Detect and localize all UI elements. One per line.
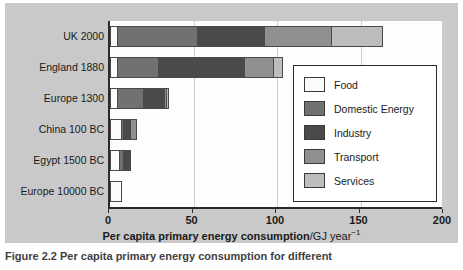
gridline <box>444 21 445 207</box>
legend-item[interactable]: Transport <box>304 148 379 165</box>
bar-segment <box>264 26 332 47</box>
x-axis-title: Per capita primary energy consumption/GJ… <box>0 228 463 242</box>
legend-label: Transport <box>334 151 379 163</box>
bar-row <box>110 26 382 47</box>
legend-item[interactable]: Food <box>304 76 358 93</box>
x-axis-tick-label: 150 <box>349 214 367 226</box>
x-axis-tick <box>275 209 276 213</box>
bar-segment <box>117 26 197 47</box>
legend-swatch <box>304 149 325 164</box>
figure-container: UK 2000England 1880Europe 1300China 100 … <box>0 0 463 270</box>
bar-row <box>110 119 136 140</box>
legend-label: Domestic Energy <box>334 103 414 115</box>
bar-segment <box>273 57 283 78</box>
bar-segment <box>117 57 159 78</box>
y-axis-tick-label: China 100 BC <box>2 123 104 135</box>
legend-swatch <box>304 173 325 188</box>
x-axis-tick-label: 200 <box>433 214 451 226</box>
legend-label: Services <box>334 175 374 187</box>
y-axis-labels: UK 2000England 1880Europe 1300China 100 … <box>0 21 104 207</box>
x-axis-tick <box>108 209 109 213</box>
gridline <box>194 21 195 207</box>
y-axis-tick-label: UK 2000 <box>2 30 104 42</box>
gridline <box>277 21 278 207</box>
x-axis-tick <box>359 209 360 213</box>
bar-segment <box>117 88 144 109</box>
bar-segment <box>244 57 274 78</box>
bar-segment <box>123 150 131 171</box>
figure-caption: Figure 2.2 Per capita primary energy con… <box>5 250 458 270</box>
x-axis-title-unit: /GJ year <box>310 230 352 242</box>
y-axis-tick-label: England 1880 <box>2 61 104 73</box>
x-axis-tick <box>442 209 443 213</box>
legend-swatch <box>304 101 325 116</box>
y-axis-tick-label: Europe 10000 BC <box>2 185 104 197</box>
bar-segment <box>331 26 383 47</box>
legend-swatch <box>304 125 325 140</box>
legend-label: Industry <box>334 127 371 139</box>
x-axis-tick-label: 100 <box>266 214 284 226</box>
x-axis-title-exponent: −1 <box>351 228 360 237</box>
y-axis-tick-label: Europe 1300 <box>2 92 104 104</box>
legend-box: FoodDomestic EnergyIndustryTransportServ… <box>293 65 437 202</box>
bar-row <box>110 181 121 202</box>
legend-swatch <box>304 77 325 92</box>
y-axis-tick-label: Egypt 1500 BC <box>2 154 104 166</box>
legend-item[interactable]: Services <box>304 172 374 189</box>
bar-segment <box>197 26 265 47</box>
bar-segment <box>143 88 165 109</box>
legend-label: Food <box>334 79 358 91</box>
x-axis-tick-label: 0 <box>105 214 111 226</box>
x-axis-title-main: Per capita primary energy consumption <box>103 230 310 242</box>
bar-row <box>110 150 130 171</box>
x-axis-ticks: 050100150200 <box>108 209 442 227</box>
bar-segment <box>158 57 245 78</box>
legend-item[interactable]: Industry <box>304 124 371 141</box>
bar-segment <box>110 181 122 202</box>
bar-segment <box>130 119 137 140</box>
legend-item[interactable]: Domestic Energy <box>304 100 414 117</box>
bar-row <box>110 57 282 78</box>
bar-segment <box>166 88 169 109</box>
x-axis-tick-label: 50 <box>185 214 197 226</box>
bar-row <box>110 88 168 109</box>
x-axis-tick <box>192 209 193 213</box>
